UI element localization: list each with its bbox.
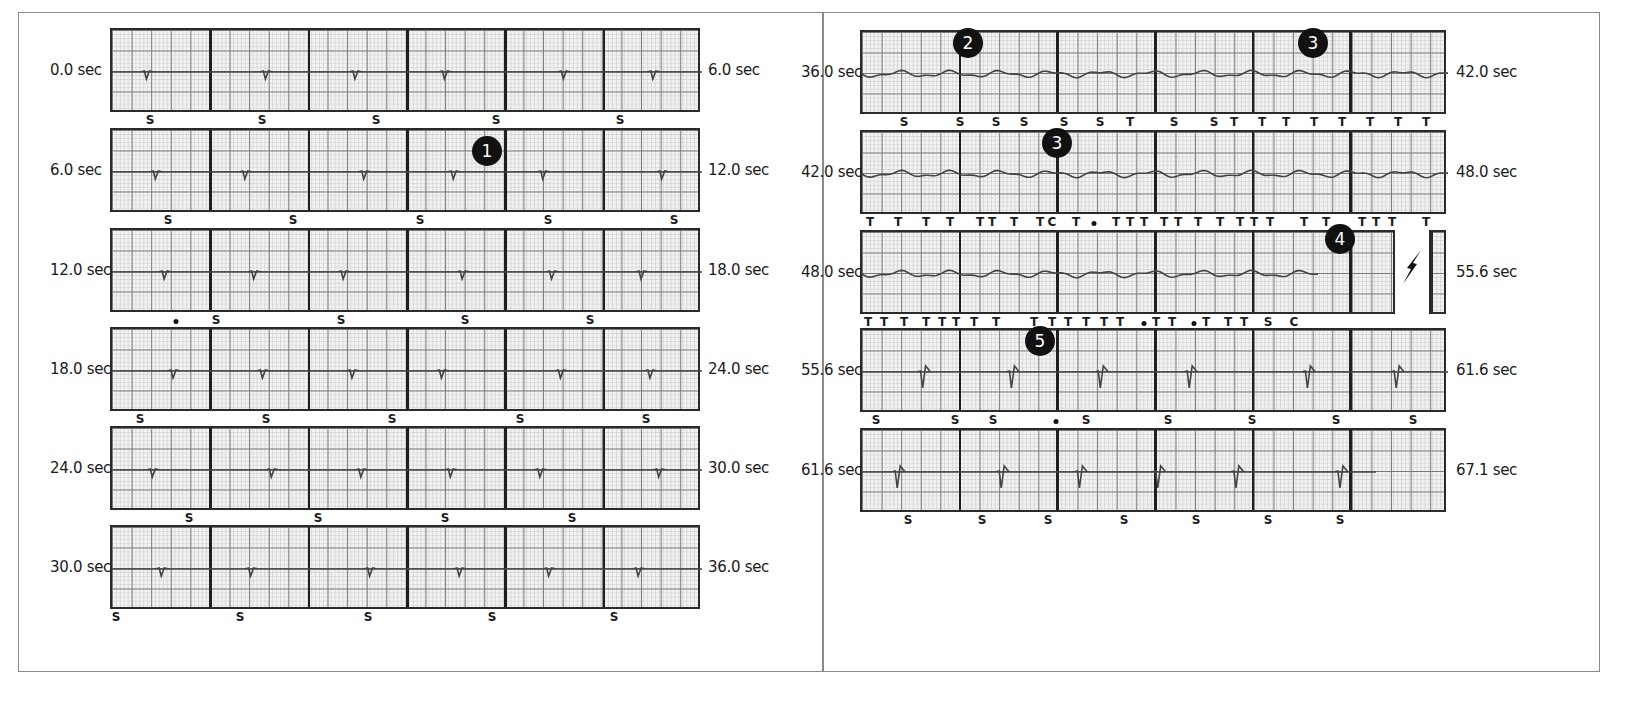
beat-annotation: S [258, 113, 267, 127]
beat-annotation: S [185, 511, 194, 525]
ecg-strip [860, 328, 1446, 412]
beat-annotation: S [236, 610, 245, 624]
ecg-trace [112, 130, 702, 214]
beat-annotation: T [1422, 115, 1430, 129]
beat-annotation: T [970, 315, 978, 329]
beat-annotation: T [1250, 215, 1258, 229]
beat-annotation: T [1072, 215, 1080, 229]
strip-end-time: 12.0 sec [708, 161, 769, 179]
event-number-badge: 2 [953, 28, 983, 58]
beat-annotation: T [1422, 215, 1430, 229]
beat-annotation: T [952, 315, 960, 329]
ecg-trace [862, 132, 1448, 216]
ecg-strip [860, 130, 1446, 214]
strip-end-time: 6.0 sec [708, 61, 760, 79]
beat-marker-dot [174, 319, 179, 324]
ecg-trace [862, 232, 1448, 316]
beat-annotation: T [1174, 215, 1182, 229]
strip-end-time: 48.0 sec [1456, 163, 1517, 181]
beat-annotation: T [1266, 215, 1274, 229]
beat-annotation: T [1152, 315, 1160, 329]
beat-annotation: T [1236, 215, 1244, 229]
beat-annotation: T [894, 215, 902, 229]
beat-annotation: S [164, 213, 173, 227]
beat-annotation: S [904, 513, 913, 527]
beat-annotation: T [1322, 215, 1330, 229]
beat-annotation: S [1120, 513, 1129, 527]
beat-annotation: T [988, 215, 996, 229]
beat-annotation: T [1394, 115, 1402, 129]
ecg-strip [110, 228, 700, 312]
beat-annotation: S [212, 313, 221, 327]
strip-end-time: 36.0 sec [708, 558, 769, 576]
beat-annotation: S [1096, 115, 1105, 129]
beat-annotation: T [1082, 315, 1090, 329]
beat-annotation: T [1338, 115, 1346, 129]
beat-annotation: T [946, 215, 954, 229]
strip-end-time: 24.0 sec [708, 360, 769, 378]
event-number-badge: 4 [1325, 224, 1355, 254]
strip-end-time: 30.0 sec [708, 459, 769, 477]
beat-annotation: T [1100, 315, 1108, 329]
beat-annotation: S [262, 412, 271, 426]
ecg-strip [860, 428, 1446, 512]
beat-annotation: S [388, 412, 397, 426]
ecg-trace [862, 32, 1448, 116]
beat-annotation: S [872, 413, 881, 427]
beat-annotation: S [568, 511, 577, 525]
beat-annotation: C [1048, 215, 1057, 229]
beat-annotation: T [1224, 315, 1232, 329]
strip-end-time: 55.6 sec [1456, 263, 1517, 281]
beat-marker-dot [1192, 321, 1197, 326]
beat-annotation: T [1366, 115, 1374, 129]
beat-annotation: S [461, 313, 470, 327]
beat-annotation: S [989, 413, 998, 427]
event-number-badge: 1 [472, 136, 502, 166]
beat-annotation: S [1192, 513, 1201, 527]
beat-annotation: S [1164, 413, 1173, 427]
strip-end-time: 42.0 sec [1456, 63, 1517, 81]
ecg-strip [860, 30, 1446, 114]
ecg-trace [112, 428, 702, 512]
ecg-trace [112, 329, 702, 413]
event-number-badge: 3 [1042, 128, 1072, 158]
beat-annotation: T [1112, 215, 1120, 229]
beat-annotation: S [112, 610, 121, 624]
beat-annotation: T [1216, 215, 1224, 229]
beat-annotation: S [900, 115, 909, 129]
beat-annotation: T [976, 215, 984, 229]
beat-annotation: T [1194, 215, 1202, 229]
beat-annotation: S [992, 115, 1001, 129]
ecg-strip [110, 128, 700, 212]
beat-annotation: T [1310, 115, 1318, 129]
event-number-badge: 5 [1025, 326, 1055, 356]
beat-annotation: S [670, 213, 679, 227]
beat-annotation: S [1409, 413, 1418, 427]
beat-annotation: T [880, 315, 888, 329]
beat-annotation: T [1258, 115, 1266, 129]
beat-annotation: S [956, 115, 965, 129]
beat-marker-dot [1054, 419, 1059, 424]
beat-annotation: S [441, 511, 450, 525]
ecg-trace [862, 330, 1448, 414]
beat-marker-dot [1092, 221, 1097, 226]
ecg-strip [110, 426, 700, 510]
strip-end-time: 18.0 sec [708, 261, 769, 279]
beat-annotation: S [586, 313, 595, 327]
beat-annotation: T [1282, 115, 1290, 129]
beat-annotation: T [1240, 315, 1248, 329]
beat-annotation: T [900, 315, 908, 329]
beat-annotation: S [1060, 115, 1069, 129]
beat-annotation: S [314, 511, 323, 525]
strip-end-time: 67.1 sec [1456, 461, 1517, 479]
beat-annotation: T [922, 215, 930, 229]
beat-annotation: C [1290, 315, 1299, 329]
ecg-strip [110, 525, 700, 609]
defibrillation-shock-icon [1401, 250, 1423, 286]
ecg-strip [110, 327, 700, 411]
strip-start-time: 36.0 sec [801, 63, 862, 81]
beat-annotation: S [289, 213, 298, 227]
beat-annotation: S [1170, 115, 1179, 129]
ecg-strip [860, 230, 1446, 314]
beat-annotation: S [1264, 513, 1273, 527]
